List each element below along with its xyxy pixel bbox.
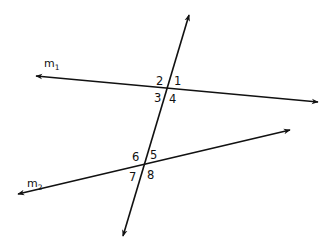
angle-label-1: 1 <box>174 74 181 88</box>
angle-label-4: 4 <box>169 92 176 106</box>
angle-label-8: 8 <box>147 168 154 182</box>
line-label-m1-name: m <box>44 57 55 70</box>
angle-label-6: 6 <box>132 150 139 164</box>
angle-label-5: 5 <box>150 148 157 162</box>
line-label-m2-name: m <box>27 177 38 190</box>
line-label-m2: m2 <box>27 177 43 192</box>
line-m2 <box>18 130 290 194</box>
angle-label-3: 3 <box>154 91 161 105</box>
line-label-m1: m1 <box>44 57 60 72</box>
angle-label-2: 2 <box>156 74 163 88</box>
transversal-diagram: m1 m2 1 2 3 4 5 6 7 8 <box>0 0 331 248</box>
line-label-m2-subscript: 2 <box>38 183 43 192</box>
transversal-line <box>123 15 189 236</box>
angle-label-7: 7 <box>129 170 136 184</box>
line-label-m1-subscript: 1 <box>55 63 60 72</box>
